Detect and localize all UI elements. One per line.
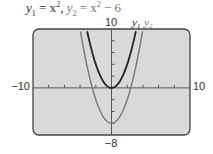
legend-y1: y1 — [131, 16, 140, 30]
xmax-label: 10 — [193, 80, 205, 92]
legend-y2: y2 — [143, 16, 153, 30]
ymax-label: 10 — [105, 16, 117, 28]
ymin-label: −8 — [105, 137, 118, 149]
xmin-label: −10 — [11, 80, 30, 92]
graph-plot: −10 10 10 −8 y1 y2 — [0, 0, 213, 154]
